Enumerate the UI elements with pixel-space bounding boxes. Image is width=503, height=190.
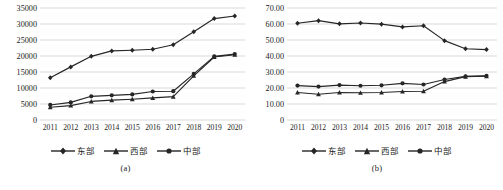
svg-text:20.00: 20.00 (266, 84, 284, 93)
svg-text:2020: 2020 (479, 123, 494, 132)
svg-text:30000: 30000 (17, 20, 37, 29)
line-chart-b: 010.0020.0030.0040.0050.0060.0070.002011… (251, 0, 503, 144)
legend-label-east-b: 东部 (328, 146, 346, 156)
svg-text:5000: 5000 (21, 100, 37, 109)
legend-label-west-b: 西部 (381, 146, 399, 156)
legend-b: 东部 西部 中部 (251, 146, 503, 156)
svg-text:10000: 10000 (17, 84, 37, 93)
svg-text:0: 0 (33, 116, 37, 125)
svg-text:10.00: 10.00 (266, 100, 284, 109)
legend-item-west-a[interactable]: 西部 (104, 146, 148, 156)
svg-text:2018: 2018 (437, 123, 452, 132)
figure-row: 0500010000150002000025000300003500020112… (0, 0, 503, 190)
svg-text:15000: 15000 (17, 68, 37, 77)
svg-text:20000: 20000 (17, 52, 37, 61)
svg-text:2019: 2019 (207, 123, 222, 132)
svg-text:2015: 2015 (374, 123, 389, 132)
svg-text:2016: 2016 (395, 123, 410, 132)
legend-item-central-a[interactable]: 中部 (157, 146, 201, 156)
svg-text:60.00: 60.00 (266, 20, 284, 29)
legend-marker-triangle-icon (355, 146, 379, 156)
svg-text:2011: 2011 (290, 123, 305, 132)
legend-marker-diamond-icon (302, 146, 326, 156)
chart-panel-b: 010.0020.0030.0040.0050.0060.0070.002011… (251, 0, 503, 190)
legend-label-east-a: 东部 (77, 146, 95, 156)
svg-text:2013: 2013 (332, 123, 347, 132)
legend-marker-circle-icon (157, 146, 181, 156)
svg-text:2016: 2016 (145, 123, 160, 132)
legend-item-west-b[interactable]: 西部 (355, 146, 399, 156)
svg-text:2017: 2017 (416, 123, 431, 132)
legend-item-east-b[interactable]: 东部 (302, 146, 346, 156)
legend-item-east-a[interactable]: 东部 (51, 146, 95, 156)
svg-text:70.00: 70.00 (266, 4, 284, 13)
svg-text:2011: 2011 (43, 123, 58, 132)
chart-panel-a: 0500010000150002000025000300003500020112… (0, 0, 251, 190)
legend-label-west-a: 西部 (130, 146, 148, 156)
svg-text:2019: 2019 (458, 123, 473, 132)
plot-area-b: 010.0020.0030.0040.0050.0060.0070.002011… (251, 0, 503, 144)
svg-text:2012: 2012 (63, 123, 78, 132)
svg-text:0: 0 (280, 116, 284, 125)
svg-text:2012: 2012 (311, 123, 326, 132)
svg-text:2014: 2014 (353, 123, 368, 132)
legend-marker-circle-icon (408, 146, 432, 156)
svg-text:50.00: 50.00 (266, 36, 284, 45)
panel-caption-b: (b) (251, 163, 503, 173)
svg-text:2018: 2018 (186, 123, 201, 132)
legend-item-central-b[interactable]: 中部 (408, 146, 452, 156)
legend-marker-diamond-icon (51, 146, 75, 156)
legend-label-central-a: 中部 (183, 146, 201, 156)
svg-text:40.00: 40.00 (266, 52, 284, 61)
svg-text:2017: 2017 (166, 123, 181, 132)
panel-caption-a: (a) (0, 163, 251, 173)
svg-text:2015: 2015 (125, 123, 140, 132)
line-chart-a: 0500010000150002000025000300003500020112… (0, 0, 251, 144)
legend-a: 东部 西部 中部 (0, 146, 251, 156)
svg-text:2014: 2014 (104, 123, 119, 132)
legend-label-central-b: 中部 (434, 146, 452, 156)
legend-marker-triangle-icon (104, 146, 128, 156)
svg-text:35000: 35000 (17, 4, 37, 13)
svg-text:2013: 2013 (84, 123, 99, 132)
plot-area-a: 0500010000150002000025000300003500020112… (0, 0, 251, 144)
svg-text:30.00: 30.00 (266, 68, 284, 77)
svg-text:25000: 25000 (17, 36, 37, 45)
svg-text:2020: 2020 (227, 123, 242, 132)
